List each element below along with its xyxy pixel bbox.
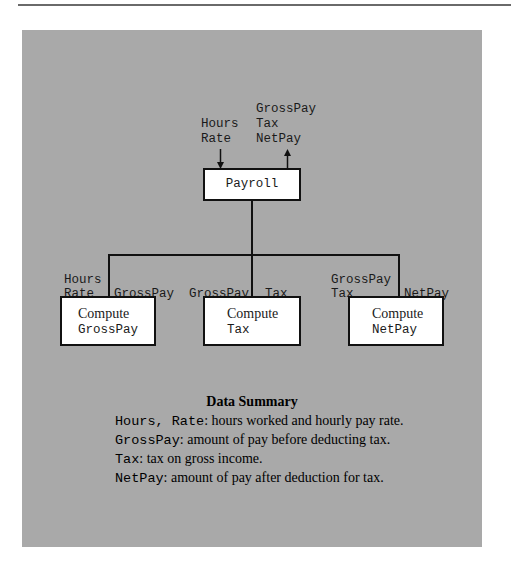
summary-term: Tax — [115, 452, 139, 467]
summary-desc: : hours worked and hourly pay rate. — [204, 413, 403, 428]
summary-entry-netpay: NetPay: amount of pay after deduction fo… — [115, 470, 384, 486]
connector-horizontal — [108, 254, 400, 256]
summary-entry-grosspay: GrossPay: amount of pay before deducting… — [115, 432, 390, 448]
arrow-down-icon — [216, 149, 225, 169]
data-summary: Data Summary — [22, 394, 482, 410]
compute-grosspay-line2: GrossPay — [78, 323, 154, 338]
summary-term: GrossPay — [115, 433, 180, 448]
payroll-output-tax: Tax — [256, 117, 279, 132]
summary-entry-tax: Tax: tax on gross income. — [115, 451, 263, 467]
net-input-grosspay: GrossPay — [331, 273, 391, 288]
compute-netpay-line2: NetPay — [372, 323, 442, 338]
connector-left-drop — [108, 254, 110, 296]
compute-grosspay-box: Compute GrossPay — [60, 296, 156, 346]
summary-desc: : amount of pay before deducting tax. — [180, 432, 390, 447]
compute-grosspay-line1: Compute — [78, 306, 154, 322]
payroll-output-grosspay: GrossPay — [256, 102, 316, 117]
page-top-rule — [18, 4, 511, 6]
arrow-up-icon — [283, 149, 292, 169]
payroll-output-netpay: NetPay — [256, 132, 301, 147]
summary-desc: : amount of pay after deduction for tax. — [164, 470, 384, 485]
compute-netpay-box: Compute NetPay — [348, 296, 444, 346]
payroll-input-hours: Hours — [201, 117, 239, 132]
compute-tax-line2: Tax — [227, 323, 299, 338]
summary-term: Hours, Rate — [115, 414, 204, 429]
structure-chart-panel: Hours Rate GrossPay Tax NetPay Payroll H… — [22, 30, 482, 547]
gross-input-hours: Hours — [64, 273, 102, 288]
payroll-input-rate: Rate — [201, 132, 231, 147]
summary-term: NetPay — [115, 471, 164, 486]
data-summary-title: Data Summary — [22, 394, 482, 410]
summary-desc: : tax on gross income. — [139, 451, 262, 466]
summary-entry-hours-rate: Hours, Rate: hours worked and hourly pay… — [115, 413, 404, 429]
compute-netpay-line1: Compute — [372, 306, 442, 322]
payroll-module-box: Payroll — [203, 168, 301, 201]
compute-tax-line1: Compute — [227, 306, 299, 322]
payroll-module-label: Payroll — [205, 177, 299, 192]
compute-tax-box: Compute Tax — [203, 296, 301, 346]
connector-right-drop — [398, 254, 400, 296]
